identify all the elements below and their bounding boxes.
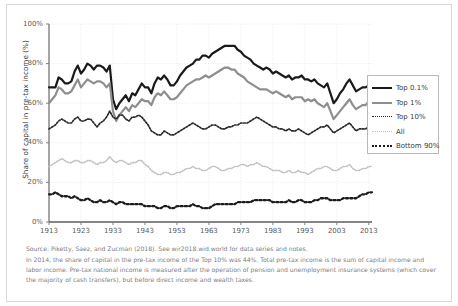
series-line [49, 157, 372, 175]
legend-item[interactable]: Top 1% [372, 96, 421, 110]
x-tick-label: 1933 [96, 227, 130, 235]
y-tick-label: 60% [13, 99, 43, 107]
footnote-source: Source: Piketty, Saez, and Zucman (2018)… [26, 244, 438, 254]
legend-item[interactable]: All [372, 125, 405, 139]
legend-item[interactable]: Top 10% [372, 110, 426, 124]
y-tick-label: 0% [13, 218, 43, 226]
x-tick-label: 1973 [224, 227, 258, 235]
legend-item-label: Top 0.1% [396, 84, 428, 92]
x-tick-label: 1923 [64, 227, 98, 235]
y-tick-label: 80% [13, 59, 43, 67]
legend-item-label: Top 10% [396, 113, 426, 121]
legend-swatch-icon [372, 98, 392, 108]
legend-item-label: Bottom 90% [396, 142, 439, 150]
legend-swatch-icon [372, 83, 392, 93]
footnote-block: Source: Piketty, Saez, and Zucman (2018)… [26, 244, 438, 285]
x-tick-label: 1993 [288, 227, 322, 235]
legend-swatch-icon [372, 127, 392, 137]
x-tick-label: 1983 [256, 227, 290, 235]
x-tick-label: 2013 [352, 227, 386, 235]
legend-item-label: Top 1% [396, 99, 421, 107]
legend-swatch-icon [372, 112, 392, 122]
figure-container: Share of capital in pre-tax income (%) 0… [0, 0, 458, 306]
series-line [49, 111, 372, 135]
x-tick-label: 1943 [128, 227, 162, 235]
y-tick-label: 40% [13, 138, 43, 146]
x-tick-label: 2003 [320, 227, 354, 235]
y-tick-label: 100% [13, 20, 43, 28]
y-tick-label: 20% [13, 178, 43, 186]
series-line [49, 192, 372, 208]
footnote-note: In 2014, the share of capital in the pre… [26, 255, 438, 285]
x-tick-label: 1963 [192, 227, 226, 235]
x-tick-label: 1913 [32, 227, 66, 235]
legend-item[interactable]: Bottom 90% [372, 139, 439, 153]
gridlines [49, 24, 372, 222]
series-line [49, 68, 372, 121]
legend-swatch-icon [372, 141, 392, 151]
chart-legend: Top 0.1%Top 1%Top 10%AllBottom 90% [367, 75, 439, 154]
x-tick-label: 1953 [160, 227, 194, 235]
legend-item[interactable]: Top 0.1% [372, 81, 428, 95]
data-series-group [49, 46, 372, 208]
legend-item-label: All [396, 128, 405, 136]
